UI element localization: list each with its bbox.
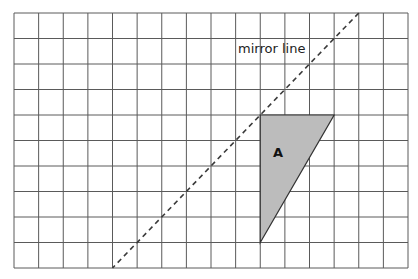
mirror-line-label: mirror line [238, 41, 305, 56]
square-grid [14, 13, 408, 268]
shape-a-label: A [273, 145, 283, 160]
shape-a-triangle [260, 115, 334, 243]
reflection-grid-diagram: A mirror line [0, 0, 418, 279]
